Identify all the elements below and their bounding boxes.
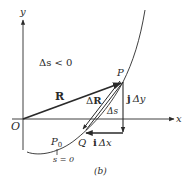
unit-j: j bbox=[126, 93, 131, 104]
delta-R-prefix: Δ bbox=[86, 95, 93, 106]
R-vector-label: R bbox=[55, 90, 65, 103]
x-axis-label: x bbox=[176, 113, 182, 124]
delta-x-text: Δx bbox=[98, 137, 112, 148]
j-delta-y-label: jΔy bbox=[126, 93, 146, 104]
diagram-canvas: y x O Δs < 0 P Q P0 s = 0 R ΔR Δs jΔy iΔ… bbox=[0, 0, 187, 184]
arc-length-label: Δs bbox=[106, 106, 118, 116]
vector-displacement-diagram: y x O Δs < 0 P Q P0 s = 0 R ΔR Δs jΔy iΔ… bbox=[0, 0, 187, 184]
unit-i: i bbox=[93, 137, 97, 148]
origin-label: O bbox=[11, 120, 20, 133]
point-P-label: P bbox=[116, 67, 124, 78]
delta-R-symbol: R bbox=[93, 95, 102, 106]
start-condition-label: s = 0 bbox=[53, 155, 74, 164]
delta-y-text: Δy bbox=[132, 93, 146, 104]
point-P0-label: P0 bbox=[50, 136, 62, 149]
point-Q-label: Q bbox=[78, 137, 86, 148]
figure-caption: (b) bbox=[94, 166, 107, 176]
i-delta-x-label: iΔx bbox=[93, 137, 112, 148]
region-note: Δs < 0 bbox=[39, 57, 72, 68]
p0-subscript: 0 bbox=[58, 141, 62, 149]
delta-R-label: ΔR bbox=[86, 95, 102, 106]
y-axis-label: y bbox=[19, 6, 26, 17]
